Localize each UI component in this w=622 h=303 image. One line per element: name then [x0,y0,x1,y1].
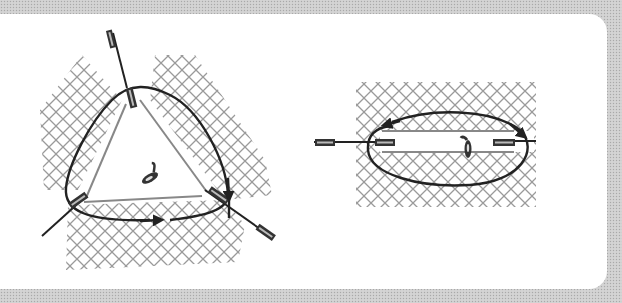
suture-diagram [0,0,622,303]
arrow-icon [228,178,229,198]
figure-card: Suture loop diagrams over hatched tissue [0,14,607,289]
anchor-right-outer [315,139,335,146]
anchor-bottom-right-outer [256,224,276,241]
anchor-top-inner [126,87,138,108]
arrow-icon [140,220,160,221]
right-panel [314,82,536,207]
anchor-right-inner-right [493,139,515,146]
anchor-right-inner-left [375,139,395,146]
left-panel [40,30,276,270]
